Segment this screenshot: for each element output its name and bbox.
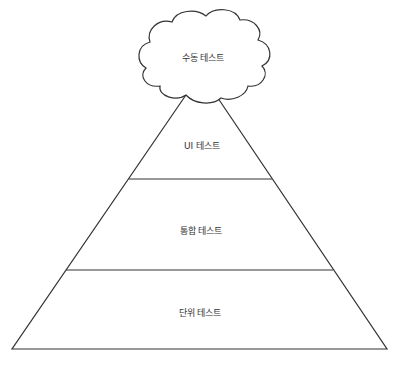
layer-label-integration-test: 통합 테스트 bbox=[180, 224, 223, 237]
cloud-label-manual-test: 수동 테스트 bbox=[182, 51, 225, 64]
layer-label-unit-test: 단위 테스트 bbox=[179, 306, 222, 319]
layer-label-ui-test: UI 테스트 bbox=[184, 139, 220, 152]
